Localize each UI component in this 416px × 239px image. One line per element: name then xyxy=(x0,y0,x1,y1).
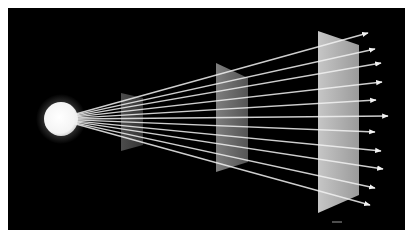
light-bulb-icon xyxy=(44,102,78,136)
plane-far xyxy=(318,31,359,213)
light-spread-diagram xyxy=(0,0,416,239)
